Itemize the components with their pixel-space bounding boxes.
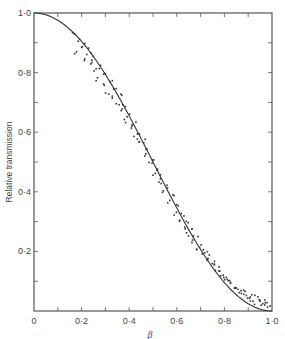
data-point xyxy=(113,88,115,90)
data-point xyxy=(259,300,261,302)
data-point xyxy=(95,80,97,82)
data-point xyxy=(193,235,195,237)
data-point xyxy=(76,51,78,53)
data-point xyxy=(264,299,266,301)
data-point xyxy=(243,289,245,291)
data-point xyxy=(214,261,216,263)
x-tick-label: 0 xyxy=(31,316,36,326)
data-point xyxy=(100,65,102,67)
data-point xyxy=(74,33,76,35)
data-point xyxy=(230,282,232,284)
data-point xyxy=(247,297,249,299)
x-tick-label: 0·8 xyxy=(218,316,231,326)
data-point xyxy=(124,119,126,121)
data-point xyxy=(243,294,245,296)
data-point xyxy=(79,39,81,41)
data-point xyxy=(215,270,217,272)
data-point xyxy=(83,60,85,62)
data-point xyxy=(84,58,86,60)
data-point xyxy=(238,292,240,294)
data-point xyxy=(109,81,111,83)
data-point xyxy=(229,280,231,282)
y-axis-label: Relative transmission xyxy=(4,121,14,202)
data-point xyxy=(135,121,137,123)
data-point xyxy=(184,228,186,230)
data-point xyxy=(111,97,113,99)
data-point xyxy=(99,68,101,70)
data-point xyxy=(163,190,165,192)
data-point xyxy=(173,214,175,216)
data-point xyxy=(262,303,264,305)
data-point xyxy=(156,169,158,171)
data-point xyxy=(180,213,182,215)
data-point xyxy=(197,236,199,238)
data-point xyxy=(246,295,248,297)
data-point xyxy=(183,215,185,217)
data-point xyxy=(254,304,256,306)
data-point xyxy=(93,70,95,72)
y-tick-label: 0·6 xyxy=(18,127,31,137)
data-point xyxy=(97,77,99,79)
data-point xyxy=(162,192,164,194)
data-point xyxy=(143,142,145,144)
data-point xyxy=(158,181,160,183)
data-point xyxy=(169,200,171,202)
y-tick-label: 1·0 xyxy=(18,8,31,18)
data-point xyxy=(92,56,94,58)
data-point xyxy=(267,306,269,308)
data-point xyxy=(211,263,213,265)
data-point xyxy=(86,54,88,56)
x-axis-label: β xyxy=(147,329,153,339)
data-point xyxy=(234,287,236,289)
theory-curve-line xyxy=(34,13,272,311)
data-point xyxy=(108,93,110,95)
data-point xyxy=(188,235,190,237)
data-point xyxy=(252,301,254,303)
data-point xyxy=(167,202,169,204)
data-point xyxy=(122,108,124,110)
x-tick-label: 0·4 xyxy=(123,316,136,326)
data-point xyxy=(125,122,127,124)
data-point xyxy=(129,113,131,115)
data-point xyxy=(160,183,162,185)
data-point xyxy=(177,205,179,207)
data-point xyxy=(266,302,268,304)
data-point xyxy=(186,232,188,234)
data-point xyxy=(260,304,262,306)
data-point xyxy=(72,32,74,34)
data-point xyxy=(120,93,122,95)
x-tick-label: 0·2 xyxy=(75,316,88,326)
data-point xyxy=(131,127,133,129)
data-point xyxy=(91,59,93,61)
data-point xyxy=(118,104,120,106)
data-point xyxy=(184,226,186,228)
data-point xyxy=(208,254,210,256)
data-point xyxy=(154,173,156,175)
data-point xyxy=(131,124,133,126)
data-point xyxy=(133,136,135,138)
data-point xyxy=(91,62,93,64)
data-point xyxy=(115,88,117,90)
data-point xyxy=(218,270,220,272)
data-point xyxy=(139,133,141,135)
data-point xyxy=(207,251,209,253)
data-point xyxy=(166,184,168,186)
data-point xyxy=(237,289,239,291)
x-tick-label: 0·6 xyxy=(170,316,183,326)
data-point xyxy=(176,204,178,206)
data-point xyxy=(146,148,148,150)
data-point xyxy=(144,139,146,141)
data-point xyxy=(202,249,204,251)
chart: 00·20·40·60·81·00·20·40·60·81·0βRelative… xyxy=(0,0,285,339)
data-point xyxy=(192,239,194,241)
data-point xyxy=(84,43,86,45)
data-point xyxy=(104,73,106,75)
data-point xyxy=(201,253,203,255)
data-point xyxy=(144,155,146,157)
data-point xyxy=(269,305,271,307)
data-point xyxy=(223,277,225,279)
data-point xyxy=(227,279,229,281)
data-point xyxy=(120,110,122,112)
x-tick-label: 1·0 xyxy=(265,316,278,326)
theory-curve xyxy=(34,13,272,311)
